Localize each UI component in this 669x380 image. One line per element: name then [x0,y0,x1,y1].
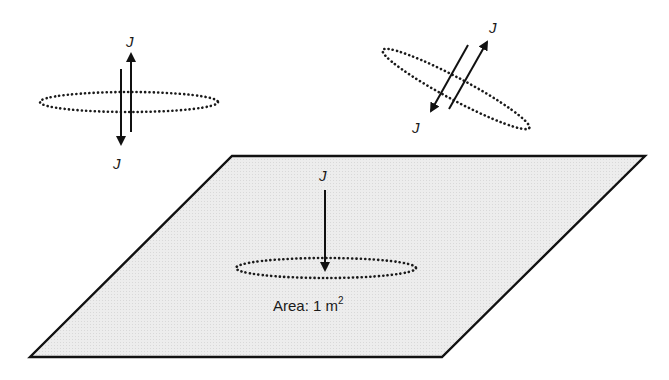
area-label-text: Area: 1 m [273,297,338,314]
current-label-top: J [125,33,134,50]
current-label-top: J [488,19,497,36]
current-density-diagram: J J J J J Area: 1 m2 [0,0,669,380]
current-label-bottom: J [112,155,121,172]
current-arrow-down-left [431,45,468,111]
current-label-bottom: J [411,119,420,136]
area-label: Area: 1 m2 [273,295,344,314]
plane-group: J Area: 1 m2 [30,156,645,357]
tilted-loop-group: J J [378,19,535,138]
area-label-superscript: 2 [338,295,344,306]
horizontal-dotted-loop [40,92,218,112]
tilted-dotted-loop [378,40,535,137]
plane-surface [30,156,645,357]
current-label: J [318,167,327,184]
current-arrow-up-right [449,42,487,109]
horizontal-loop-group: J J [40,33,218,172]
